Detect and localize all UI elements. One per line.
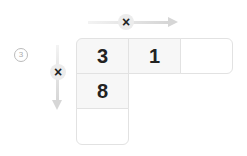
problem-number: 3 (14, 48, 28, 62)
cell-row-2[interactable] (180, 38, 233, 74)
cell-col-1[interactable]: 8 (76, 73, 129, 109)
cell-col-2[interactable] (76, 108, 129, 145)
cell-row-1[interactable]: 1 (128, 38, 181, 74)
multiply-icon-vertical: × (50, 64, 66, 80)
multiply-icon-horizontal: × (118, 14, 134, 30)
cell-row-0[interactable]: 3 (76, 38, 129, 74)
